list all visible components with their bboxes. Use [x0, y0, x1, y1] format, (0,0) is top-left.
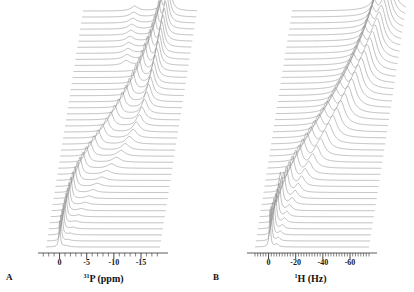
panel-a-axis-title-text: P (ppm) — [89, 273, 123, 284]
spectrum-trace — [83, 0, 197, 11]
spectrum-trace — [60, 141, 174, 156]
panel-b-axis-title-text: H (Hz) — [297, 273, 326, 284]
axis-tick-label: -15 — [136, 258, 147, 268]
spectrum-trace — [69, 84, 183, 102]
panel-b: 0-20-40-60 1H (Hz) B — [207, 0, 414, 292]
panel-b-label: B — [213, 272, 219, 282]
spectrum-trace — [58, 152, 172, 168]
spectrum-trace — [269, 133, 383, 156]
axis-tick-label: 0 — [267, 258, 271, 268]
spectrum-trace — [271, 121, 385, 144]
spectrum-trace — [64, 118, 178, 132]
spectrum-trace — [280, 58, 394, 89]
spectrum-trace — [285, 18, 399, 53]
spectrum-trace — [57, 157, 171, 174]
spectrum-trace — [80, 1, 194, 29]
spectrum-trace — [286, 12, 400, 47]
spectrum-trace — [68, 92, 182, 108]
spectrum-trace — [268, 139, 382, 162]
spectrum-trace — [47, 215, 161, 241]
spectrum-trace — [59, 147, 173, 163]
panel-a-plot — [0, 0, 207, 260]
spectrum-trace — [270, 127, 384, 150]
nmr-stacked-figure: 0-5-10-15 31P (ppm) A 0-20-40-60 1H (Hz)… — [0, 0, 414, 292]
panel-a-tick-labels: 0-5-10-15 — [0, 258, 207, 270]
spectrum-trace — [284, 25, 398, 59]
spectrum-trace — [81, 0, 195, 23]
spectrum-trace — [79, 8, 193, 35]
panel-a-label: A — [6, 272, 13, 282]
spectrum-trace — [284, 31, 398, 65]
axis-tick-label: -40 — [318, 258, 329, 268]
spectrum-trace — [272, 114, 386, 138]
spectrum-trace — [276, 86, 390, 114]
panel-b-plot — [207, 0, 414, 260]
panel-a-traces — [0, 0, 207, 260]
spectrum-trace — [71, 69, 185, 89]
spectrum-trace — [73, 55, 187, 77]
spectrum-trace — [283, 38, 397, 71]
axis-tick-label: -10 — [109, 258, 120, 268]
spectrum-trace — [65, 112, 179, 126]
panel-b-tick-labels: 0-20-40-60 — [207, 258, 414, 270]
panel-a-axis-title: 31P (ppm) — [0, 270, 207, 285]
axis-tick-label: 0 — [58, 258, 62, 268]
axis-tick-label: -5 — [83, 258, 90, 268]
spectrum-trace — [289, 0, 403, 29]
spectrum-trace — [281, 51, 395, 83]
spectrum-trace — [74, 48, 188, 71]
axis-tick-label: -20 — [290, 258, 301, 268]
axis-tick-label: -60 — [345, 258, 356, 268]
panel-a: 0-5-10-15 31P (ppm) A — [0, 0, 207, 292]
panel-b-axis-title: 1H (Hz) — [207, 270, 414, 285]
spectrum-trace — [56, 167, 170, 186]
spectrum-trace — [63, 124, 177, 138]
spectrum-trace — [78, 15, 192, 41]
panel-b-traces — [207, 0, 414, 260]
spectrum-trace — [267, 145, 381, 169]
